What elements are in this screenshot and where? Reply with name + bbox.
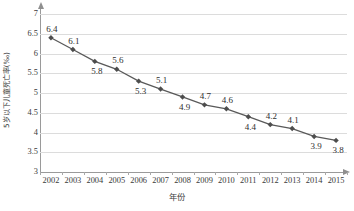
plot-area: 6.46.15.85.65.35.14.94.74.64.44.24.13.93… [40, 14, 347, 172]
x-axis-tick-label: 2005 [108, 176, 125, 186]
x-axis-tick-label: 2004 [86, 176, 103, 186]
x-axis-tick-label: 2013 [284, 176, 301, 186]
y-axis-tick-label: 3.5 [28, 148, 38, 156]
y-axis-arrow-icon [38, 2, 44, 9]
series-line-path [40, 14, 347, 172]
x-axis-line [40, 172, 343, 173]
x-axis-tick [128, 172, 129, 175]
data-point-label: 3.8 [332, 146, 343, 155]
x-axis-tick-label: 2010 [218, 176, 235, 186]
y-axis-tick-label: 4.5 [28, 109, 38, 117]
data-point-label: 5.1 [156, 76, 167, 85]
data-point-label: 4.6 [222, 95, 233, 104]
x-axis-tick [106, 172, 107, 175]
x-axis-tick [281, 172, 282, 175]
y-axis-title-text: 5岁以下儿童死亡率(‰) [1, 52, 11, 128]
x-axis-tick [40, 172, 41, 175]
x-axis-tick [172, 172, 173, 175]
x-axis-tick [84, 172, 85, 175]
x-axis-tick [303, 172, 304, 175]
under-five-mortality-line-chart: 5岁以下儿童死亡率(‰) 76.565.554.543.53 6.46.15.8… [0, 0, 354, 211]
x-axis-tick-label: 2008 [174, 176, 191, 186]
x-axis-tick-label: 2014 [306, 176, 323, 186]
x-axis-tick [259, 172, 260, 175]
data-point-label: 4.4 [245, 122, 256, 131]
y-axis-tick-label: 5 [34, 89, 38, 97]
x-axis-tick [325, 172, 326, 175]
x-axis-tick-labels: 2002200320042005200620072008200920102011… [0, 176, 354, 190]
x-axis-tick-label: 2015 [328, 176, 345, 186]
data-point-label: 6.4 [46, 24, 57, 33]
x-axis-tick [194, 172, 195, 175]
x-axis-tick [215, 172, 216, 175]
y-axis-tick-label: 7 [34, 10, 38, 18]
x-axis-tick-label: 2007 [152, 176, 169, 186]
y-axis-tick-label: 3 [34, 168, 38, 176]
x-axis-tick [237, 172, 238, 175]
y-axis-tick-label: 6.5 [28, 30, 38, 38]
data-point-label: 4.9 [179, 102, 190, 111]
data-point-label: 5.3 [135, 87, 146, 96]
x-axis-tick [347, 172, 348, 175]
data-point-label: 6.1 [68, 36, 79, 45]
x-axis-tick-label: 2012 [262, 176, 279, 186]
data-point-label: 5.8 [91, 67, 102, 76]
x-axis-tick [62, 172, 63, 175]
x-axis-tick [150, 172, 151, 175]
x-axis-tick-label: 2003 [65, 176, 82, 186]
data-point-label: 3.9 [310, 142, 321, 151]
data-point-label: 4.1 [288, 115, 299, 124]
y-axis-tick-labels: 76.565.554.543.53 [12, 0, 38, 180]
y-axis-tick-label: 4 [34, 128, 38, 136]
y-axis-tick-label: 5.5 [28, 69, 38, 77]
x-axis-tick-label: 2006 [130, 176, 147, 186]
x-axis-title: 年份 [0, 190, 354, 202]
data-point-label: 5.6 [112, 56, 123, 65]
y-axis-tick-label: 6 [34, 49, 38, 57]
x-axis-tick-label: 2002 [43, 176, 60, 186]
data-point-label: 4.7 [200, 91, 211, 100]
x-axis-tick-label: 2009 [196, 176, 213, 186]
data-point-label: 4.2 [266, 111, 277, 120]
x-axis-tick-label: 2011 [240, 176, 256, 186]
